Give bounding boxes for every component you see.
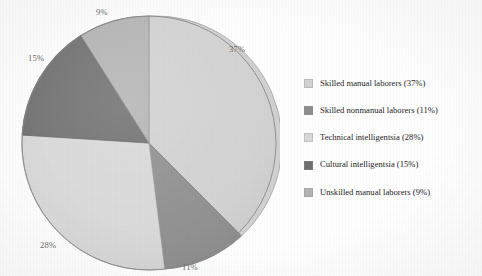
pie-chart-figure: 37% 11% 28% 15% 9% Skilled manual labore…	[0, 0, 482, 276]
slice-label-skilled-manual: 37%	[229, 44, 245, 54]
chart-legend: Skilled manual laborers (37%) Skilled no…	[304, 70, 478, 206]
legend-swatch-icon	[304, 133, 313, 142]
legend-item-label: Technical intelligentsia (28%)	[320, 133, 423, 142]
legend-item-skilled-manual: Skilled manual laborers (37%)	[304, 70, 478, 97]
legend-item-label: Skilled nonmanual laborers (11%)	[320, 106, 438, 115]
legend-swatch-icon	[304, 188, 313, 197]
slice-label-technical: 28%	[40, 240, 56, 250]
legend-swatch-icon	[304, 106, 313, 115]
slice-label-cultural: 15%	[28, 53, 44, 63]
legend-swatch-icon	[304, 161, 313, 170]
legend-item-label: Cultural intelligentsia (15%)	[320, 160, 418, 169]
legend-item-skilled-nonmanual: Skilled nonmanual laborers (11%)	[304, 97, 478, 124]
legend-item-technical: Technical intelligentsia (28%)	[304, 124, 478, 151]
slice-label-skilled-nonmanual: 11%	[182, 262, 198, 272]
legend-item-label: Skilled manual laborers (37%)	[320, 79, 425, 88]
legend-item-unskilled: Unskilled manual laborers (9%)	[304, 179, 478, 206]
legend-item-label: Unskilled manual laborers (9%)	[320, 188, 430, 197]
pie-outline	[22, 16, 276, 270]
slice-label-unskilled: 9%	[96, 7, 108, 17]
legend-item-cultural: Cultural intelligentsia (15%)	[304, 152, 478, 179]
legend-swatch-icon	[304, 79, 313, 88]
